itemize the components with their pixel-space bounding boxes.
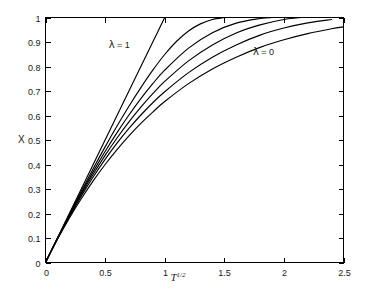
curve-annotation: λ = 0 bbox=[253, 46, 274, 57]
x-tick-label: 2 bbox=[282, 268, 287, 278]
y-tick-label: 1 bbox=[35, 14, 40, 24]
x-tick-label: 1.5 bbox=[218, 268, 231, 278]
y-tick-label: 0.9 bbox=[28, 38, 41, 48]
figure-background bbox=[0, 0, 366, 297]
x-tick-label: 1 bbox=[163, 268, 168, 278]
x-tick-label: 0 bbox=[44, 268, 49, 278]
y-tick-label: 0.4 bbox=[28, 161, 41, 171]
chart-svg: 00.511.522.5 00.10.20.30.40.50.60.70.80.… bbox=[0, 0, 366, 297]
y-tick-label: 0.8 bbox=[28, 63, 41, 73]
y-axis-title: X bbox=[18, 134, 25, 145]
y-tick-label: 0.2 bbox=[28, 210, 41, 220]
chart-figure: 00.511.522.5 00.10.20.30.40.50.60.70.80.… bbox=[0, 0, 366, 297]
y-tick-label: 0.6 bbox=[28, 112, 41, 122]
y-tick-label: 0.1 bbox=[28, 234, 41, 244]
x-tick-label: 2.5 bbox=[338, 268, 351, 278]
y-tick-label: 0.7 bbox=[28, 87, 41, 97]
y-tick-label: 0.5 bbox=[28, 136, 41, 146]
y-tick-label: 0 bbox=[35, 259, 40, 269]
curve-annotation: λ = 1 bbox=[109, 39, 130, 50]
y-tick-label: 0.3 bbox=[28, 185, 41, 195]
x-tick-label: 0.5 bbox=[99, 268, 112, 278]
